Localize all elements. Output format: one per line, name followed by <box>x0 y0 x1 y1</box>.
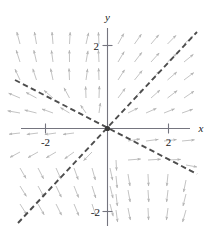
y-axis-label: y <box>104 11 110 23</box>
x-tick-label-pos2: 2 <box>166 136 172 148</box>
y-tick-label-neg2: -2 <box>91 206 100 218</box>
x-tick-label-neg2: -2 <box>41 136 50 148</box>
direction-field-figure: -2 2 2 -2 x y <box>0 0 219 232</box>
phase-portrait-plot: -2 2 2 -2 x y <box>0 0 219 232</box>
equilibrium-point <box>105 126 110 131</box>
x-axis-label: x <box>198 122 204 134</box>
y-tick-label-pos2: 2 <box>94 40 100 52</box>
